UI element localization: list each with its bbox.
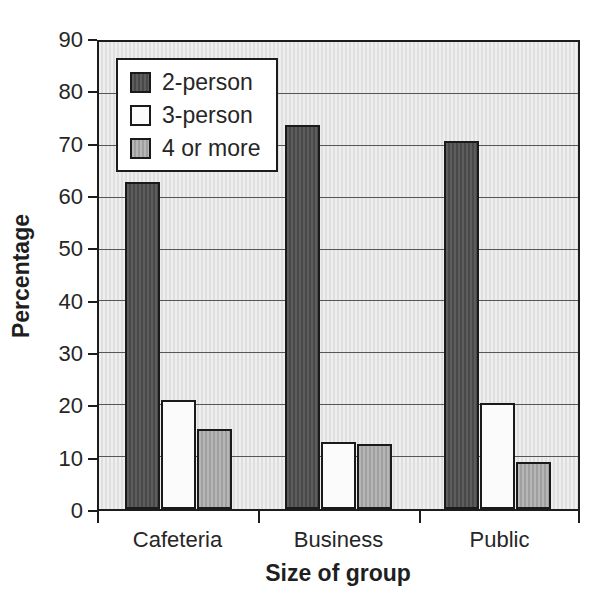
y-axis-tick-30 [88, 353, 97, 355]
y-axis-tick-70 [88, 144, 97, 146]
y-tick-label-70: 70 [37, 132, 83, 158]
legend-swatch-4-or-more-icon [130, 138, 151, 159]
gridline-40 [99, 300, 578, 301]
plot-area: 2-person 3-person 4 or more [97, 40, 580, 511]
y-axis-tick-80 [88, 91, 97, 93]
x-axis-tick-1 [258, 511, 260, 523]
y-tick-label-20: 20 [37, 393, 83, 419]
x-category-label-public: Public [470, 527, 530, 553]
y-axis-tick-40 [88, 301, 97, 303]
y-axis-tick-20 [88, 405, 97, 407]
bar-4-or-more-public [516, 462, 551, 509]
legend: 2-person 3-person 4 or more [116, 58, 278, 172]
y-tick-label-80: 80 [37, 79, 83, 105]
y-axis-tick-10 [88, 458, 97, 460]
y-axis-tick-50 [88, 248, 97, 250]
bar-3-person-public [480, 403, 515, 509]
x-category-label-cafeteria: Cafeteria [133, 527, 222, 553]
legend-item-4-or-more: 4 or more [130, 135, 260, 161]
x-axis-tick-3 [578, 511, 580, 523]
y-tick-label-30: 30 [37, 341, 83, 367]
y-axis-tick-0 [88, 510, 97, 512]
legend-item-2-person: 2-person [130, 69, 260, 95]
legend-label-4-or-more: 4 or more [162, 135, 260, 161]
y-tick-label-50: 50 [37, 236, 83, 262]
y-tick-label-90: 90 [37, 27, 83, 53]
bar-4-or-more-cafeteria [197, 429, 232, 509]
bar-2-person-business [285, 125, 320, 509]
bar-2-person-cafeteria [125, 182, 160, 509]
x-axis-tick-2 [419, 511, 421, 523]
y-tick-label-40: 40 [37, 289, 83, 315]
bar-2-person-public [444, 141, 479, 509]
y-axis-tick-60 [88, 196, 97, 198]
bar-4-or-more-business [357, 444, 392, 509]
x-axis-tick-0 [97, 511, 99, 523]
legend-swatch-3-person-icon [130, 105, 151, 126]
y-axis-tick-90 [88, 39, 97, 41]
bar-chart-figure: Percentage 2-person 3-person 4 or more 0… [0, 0, 602, 608]
legend-item-3-person: 3-person [130, 102, 260, 128]
y-axis-title: Percentage [8, 214, 35, 338]
legend-label-2-person: 2-person [162, 69, 253, 95]
legend-swatch-2-person-icon [130, 72, 151, 93]
x-axis-title: Size of group [265, 560, 411, 587]
gridline-50 [99, 249, 578, 250]
y-tick-label-10: 10 [37, 446, 83, 472]
legend-label-3-person: 3-person [162, 102, 253, 128]
gridline-60 [99, 197, 578, 198]
bar-3-person-cafeteria [161, 400, 196, 509]
gridline-30 [99, 352, 578, 353]
y-tick-label-0: 0 [37, 498, 83, 524]
y-tick-label-60: 60 [37, 184, 83, 210]
bar-3-person-business [321, 442, 356, 509]
x-category-label-business: Business [294, 527, 383, 553]
